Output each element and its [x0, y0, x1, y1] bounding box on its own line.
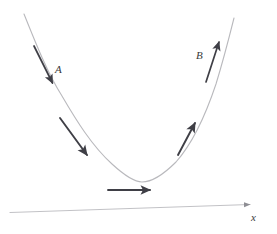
figure-canvas	[0, 0, 277, 234]
tangent-vector-arrow-a	[34, 46, 53, 83]
tangent-vector-arrow-b	[206, 42, 219, 82]
point-label-b: B	[196, 50, 203, 61]
x-axis-arrow	[10, 205, 250, 213]
parabola-curve	[24, 14, 234, 182]
axis-label-x: x	[251, 212, 256, 223]
point-label-a: A	[55, 64, 62, 75]
physics-figure-parabola-vectors: A B x	[0, 0, 277, 234]
tangent-vector-arrow-lower-left	[60, 118, 87, 155]
